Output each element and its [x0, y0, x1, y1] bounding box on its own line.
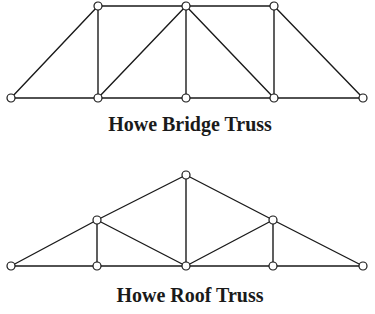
truss-member [186, 175, 273, 220]
truss-joint [93, 262, 101, 270]
truss-joint [182, 94, 190, 102]
truss-joint [7, 262, 15, 270]
truss-joint [359, 262, 367, 270]
truss-joint [182, 2, 190, 10]
truss-member [11, 6, 98, 98]
truss-joint [269, 262, 277, 270]
truss-member [97, 220, 186, 266]
truss-diagrams: Howe Bridge Truss Howe Roof Truss [0, 0, 375, 314]
truss-joint [182, 171, 190, 179]
truss-joint [269, 216, 277, 224]
truss-joint [94, 94, 102, 102]
truss-joint [359, 94, 367, 102]
bridge-members [11, 6, 363, 98]
truss-member [274, 6, 363, 98]
truss-member [186, 6, 274, 98]
truss-joint [94, 2, 102, 10]
roof-members [11, 175, 363, 266]
truss-member [11, 220, 97, 266]
truss-member [97, 175, 186, 220]
truss-joint [270, 2, 278, 10]
truss-member [98, 6, 186, 98]
bridge-truss-caption: Howe Bridge Truss [108, 113, 272, 136]
truss-joint [182, 262, 190, 270]
howe-bridge-truss: Howe Bridge Truss [7, 2, 367, 136]
roof-joints [7, 171, 367, 270]
truss-joint [270, 94, 278, 102]
truss-joint [7, 94, 15, 102]
bridge-joints [7, 2, 367, 102]
truss-member [186, 220, 273, 266]
truss-joint [93, 216, 101, 224]
howe-roof-truss: Howe Roof Truss [7, 171, 367, 306]
truss-member [273, 220, 363, 266]
roof-truss-caption: Howe Roof Truss [116, 284, 263, 306]
